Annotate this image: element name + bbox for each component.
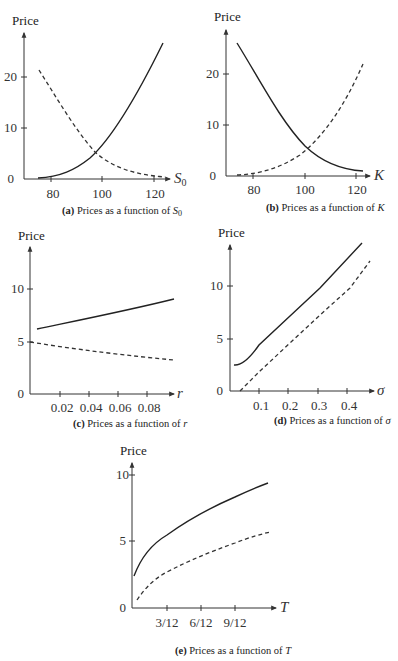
x-ticks: 3/12 6/12 9/12 (155, 605, 246, 630)
svg-text:10: 10 (4, 120, 17, 135)
svg-text:20: 20 (206, 66, 219, 81)
x-axis-label: S0 (174, 170, 187, 188)
caption-c: (c) Prices as a function of r (73, 418, 188, 430)
x-axis-label: K (373, 167, 385, 183)
svg-text:10: 10 (206, 117, 219, 132)
chart-c: Price 0 5 10 0.02 0.04 0.06 0.08 r (c) P… (11, 228, 188, 430)
caption-b: (b) Prices as a function of K (266, 202, 385, 214)
svg-text:6/12: 6/12 (189, 615, 212, 630)
chart-a: Price 0 10 20 80 100 120 S0 (a) Prices a… (4, 13, 187, 218)
x-ticks: 80 100 120 (47, 176, 165, 201)
svg-text:9/12: 9/12 (223, 615, 246, 630)
svg-text:0.2: 0.2 (282, 398, 298, 413)
chart-e: Price 0 5 10 3/12 6/12 9/12 T (e) Prices… (116, 443, 292, 657)
svg-text:0: 0 (18, 386, 25, 401)
svg-text:10: 10 (116, 467, 129, 482)
svg-text:5: 5 (217, 331, 224, 346)
y-axis-label: Price (120, 443, 147, 458)
svg-text:0: 0 (210, 168, 217, 183)
put-price-line (237, 64, 363, 175)
svg-text:5: 5 (18, 334, 25, 349)
call-price-line (38, 43, 163, 178)
svg-text:10: 10 (11, 281, 24, 296)
svg-text:3/12: 3/12 (155, 615, 178, 630)
svg-text:120: 120 (347, 182, 367, 197)
y-axis-label: Price (214, 9, 241, 24)
call-price-line (134, 483, 268, 576)
svg-text:0.04: 0.04 (80, 400, 103, 415)
y-axis-label: Price (218, 225, 245, 240)
svg-text:10: 10 (210, 278, 223, 293)
svg-text:0: 0 (8, 171, 15, 186)
caption-e: (e) Prices as a function of T (175, 645, 292, 657)
y-axis-label: Price (12, 13, 39, 28)
svg-text:80: 80 (47, 186, 60, 201)
x-axis-label: T (280, 599, 290, 615)
call-price-line (234, 243, 362, 365)
figure-canvas: Price 0 10 20 80 100 120 S0 (a) Prices a… (0, 0, 398, 661)
x-ticks: 0.02 0.04 0.06 0.08 (51, 391, 161, 415)
x-axis-label: r (177, 385, 183, 401)
svg-text:120: 120 (145, 186, 165, 201)
put-price-line (39, 70, 165, 177)
put-price-line (30, 342, 174, 360)
svg-text:0.3: 0.3 (311, 398, 327, 413)
call-price-line (37, 299, 174, 329)
put-price-line (240, 261, 370, 391)
chart-d: Price 0 5 10 0.1 0.2 0.3 0.4 σ (d) Price… (210, 225, 391, 427)
svg-text:100: 100 (92, 186, 112, 201)
svg-text:0.1: 0.1 (253, 398, 269, 413)
chart-b: Price 0 10 20 80 100 120 K (b) Prices as… (206, 9, 385, 214)
svg-text:0.08: 0.08 (138, 400, 161, 415)
call-price-line (237, 43, 363, 171)
y-axis-label: Price (18, 228, 45, 243)
x-axis-label: σ (377, 382, 385, 398)
svg-text:0: 0 (217, 383, 224, 398)
caption-a: (a) Prices as a function of S0 (62, 205, 182, 218)
svg-text:100: 100 (295, 182, 315, 197)
svg-text:0.02: 0.02 (51, 400, 74, 415)
svg-text:0.4: 0.4 (341, 398, 358, 413)
x-ticks: 0.1 0.2 0.3 0.4 (253, 388, 358, 413)
svg-text:80: 80 (248, 182, 261, 197)
svg-text:0.06: 0.06 (109, 400, 132, 415)
x-ticks: 80 100 120 (248, 173, 367, 197)
svg-text:0: 0 (120, 600, 127, 615)
caption-d: (d) Prices as a function of σ (274, 415, 391, 427)
svg-text:20: 20 (4, 69, 17, 84)
svg-text:5: 5 (120, 533, 127, 548)
